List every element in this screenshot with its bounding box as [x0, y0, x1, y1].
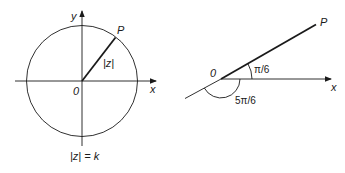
diagram-canvas: y P |z| 0 x |z| = k 0 P π/6 x 5π/6: [0, 0, 345, 173]
modulus-label: |z|: [103, 57, 114, 69]
left-figure: y P |z| 0 x |z| = k: [15, 10, 156, 162]
y-axis-label-left: y: [70, 10, 78, 22]
point-P-label-right: P: [320, 16, 328, 28]
origin-label-right: 0: [210, 67, 217, 79]
point-P-label-left: P: [117, 24, 125, 36]
angle-label-pi-over-6: π/6: [254, 64, 270, 75]
angle-arc-pi-over-6: [248, 64, 252, 79]
x-axis-label-right: x: [330, 81, 337, 93]
origin-label-left: 0: [73, 85, 80, 97]
circle-caption: |z| = k: [70, 150, 100, 162]
angle-label-5pi-over-6: 5π/6: [235, 95, 256, 106]
right-figure: 0 P π/6 x 5π/6: [185, 16, 337, 106]
x-axis-label-left: x: [149, 83, 156, 95]
ray-extension: [185, 79, 221, 99]
